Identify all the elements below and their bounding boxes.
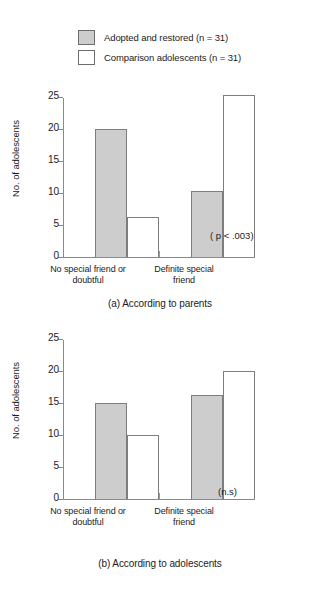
y-tick-10-a: 10 [63,193,64,194]
y-tick-15-b: 15 [63,403,64,404]
panel-caption-b: (b) According to adolescents [0,558,320,569]
x-axis-separator-a [159,251,160,257]
legend-label-adopted: Adopted and restored (n = 31) [104,32,228,43]
panel-caption-a: (a) According to parents [0,298,320,309]
x-axis-separator-b [159,493,160,499]
x-category-label-a-1: No special friend or doubtful [36,264,140,286]
significance-annotation-a: ( p < .003) [210,230,254,241]
y-tick-20-b: 20 [63,371,64,372]
legend-swatch-empty [78,50,95,65]
y-axis-line-a [63,98,64,258]
bar-a-g1-adopted [95,129,127,257]
y-tick-0-b: 0 [63,499,64,500]
plot-canvas-b: 0 5 10 15 20 25 [63,340,255,500]
x-axis-line-b [63,499,255,500]
bar-b-g1-comparison [127,435,159,499]
plot-area-b: No. of adolescents 0 5 10 15 20 [0,326,320,531]
chart-panel-a: No. of adolescents 0 5 10 15 [0,84,320,289]
y-tick-0-a: 0 [63,257,64,258]
y-tick-5-b: 5 [63,467,64,468]
y-tick-10-b: 10 [63,435,64,436]
y-tick-25-a: 25 [63,97,64,98]
legend-swatch-filled [78,30,95,45]
chart-panel-b: No. of adolescents 0 5 10 15 20 [0,326,320,531]
y-axis-title-a: No. of adolescents [10,120,24,197]
legend-item-comparison: Comparison adolescents (n = 31) [78,50,241,65]
y-tick-5-a: 5 [63,225,64,226]
x-category-label-b-2: Definite special friend [138,506,230,528]
chart-legend: Adopted and restored (n = 31) Comparison… [78,30,241,65]
y-axis-line-b [63,340,64,500]
y-tick-25-b: 25 [63,339,64,340]
bar-b-g2-adopted [191,395,223,499]
x-category-label-b-1: No special friend or doubtful [36,506,140,528]
bar-b-g2-comparison [223,371,255,499]
y-axis-title-b: No. of adolescents [10,362,24,439]
bar-a-g2-adopted [191,191,223,257]
plot-area-a: No. of adolescents 0 5 10 15 [0,84,320,289]
y-tick-20-a: 20 [63,129,64,130]
bar-a-g1-comparison [127,217,159,257]
legend-label-comparison: Comparison adolescents (n = 31) [104,52,241,63]
legend-item-adopted: Adopted and restored (n = 31) [78,30,241,45]
x-axis-line-a [63,257,255,258]
y-tick-15-a: 15 [63,161,64,162]
x-category-label-a-2: Definite special friend [138,264,230,286]
bar-b-g1-adopted [95,403,127,499]
significance-annotation-b: (n.s) [218,486,237,497]
